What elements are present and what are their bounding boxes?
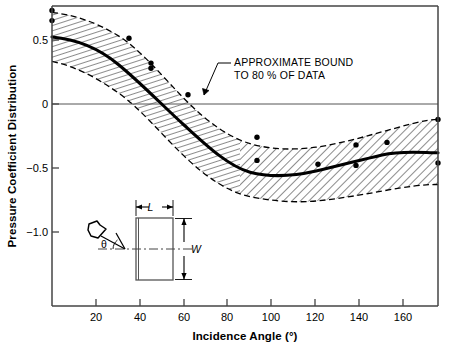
y-tick-label: −0.5 xyxy=(26,162,48,174)
annotation-line-1: APPROXIMATE BOUND xyxy=(234,56,354,68)
y-tick-labels: 0.5 0 −0.5 −1.0 xyxy=(26,34,48,238)
annotation-line-2: TO 80 % OF DATA xyxy=(234,69,325,81)
data-point xyxy=(148,66,153,71)
data-point xyxy=(148,60,153,65)
data-point xyxy=(254,158,259,163)
x-tick-label: 60 xyxy=(178,311,190,323)
x-tick-label: 140 xyxy=(350,311,368,323)
x-tick-labels: 20 40 60 80 100 120 140 160 xyxy=(90,311,412,323)
data-point xyxy=(126,36,131,41)
data-point xyxy=(315,162,320,167)
y-tick-label: 0 xyxy=(42,98,48,110)
y-axis-title: Pressure Coefficient Distribution xyxy=(6,65,18,248)
inset-angle-label: θ xyxy=(101,238,107,250)
x-axis-title: Incidence Angle (°) xyxy=(192,330,297,342)
data-point xyxy=(353,142,358,147)
x-tick-label: 100 xyxy=(262,311,280,323)
x-tick-label: 160 xyxy=(394,311,412,323)
data-point xyxy=(185,92,190,97)
y-tick-label: 0.5 xyxy=(33,34,48,46)
inset-length-label: L xyxy=(148,201,154,213)
x-tick-label: 40 xyxy=(134,311,146,323)
x-tick-label: 80 xyxy=(221,311,233,323)
figure-container: APPROXIMATE BOUND TO 80 % OF DATA L W xyxy=(0,0,453,347)
data-point xyxy=(384,140,389,145)
inset-width-label: W xyxy=(191,243,202,255)
y-tick-label: −1.0 xyxy=(26,226,48,238)
pressure-coefficient-chart: APPROXIMATE BOUND TO 80 % OF DATA L W xyxy=(0,0,453,347)
data-point xyxy=(353,163,358,168)
x-tick-label: 20 xyxy=(90,311,102,323)
data-point xyxy=(254,135,259,140)
x-tick-label: 120 xyxy=(306,311,324,323)
